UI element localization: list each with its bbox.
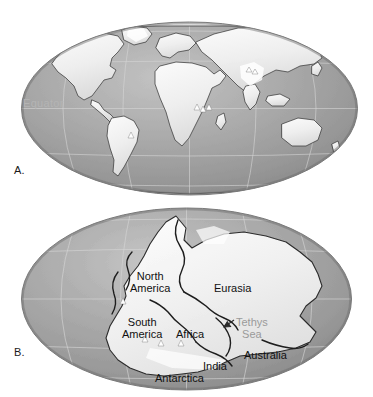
- label-south-america: South America: [122, 316, 162, 340]
- panel-b-pangaea-map: North America Eurasia South America Afri…: [0, 200, 373, 397]
- label-north-america: North America: [130, 270, 170, 294]
- label-eurasia: Eurasia: [214, 282, 251, 294]
- label-india: India: [203, 360, 227, 372]
- label-africa: Africa: [176, 328, 204, 340]
- world-map-pangaea: [0, 200, 373, 397]
- label-antarctica: Antarctica: [155, 372, 204, 384]
- equator-label: Equator: [23, 97, 64, 109]
- panel-b-label: B.: [14, 346, 25, 358]
- label-australia: Australia: [244, 349, 287, 361]
- label-tethys-sea: Tethys Sea: [236, 316, 268, 340]
- panel-a-label: A.: [14, 164, 25, 176]
- panel-a-present-day-map: Equator A.: [0, 0, 373, 200]
- pangaea-figure: Equator A.: [0, 0, 373, 397]
